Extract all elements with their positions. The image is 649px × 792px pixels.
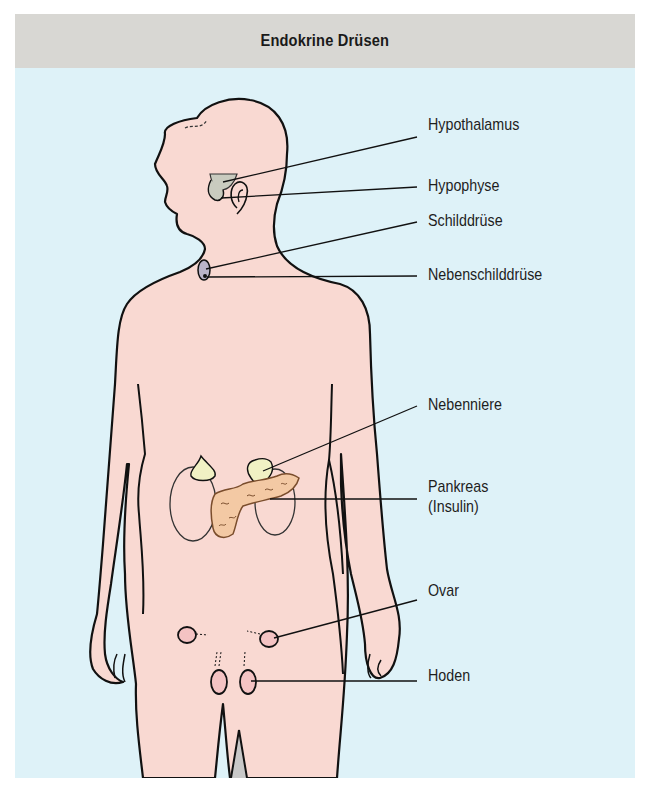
label-pankreas-note: (Insulin): [428, 497, 479, 517]
label-hoden: Hoden: [428, 666, 470, 686]
label-hypophyse: Hypophyse: [428, 176, 499, 196]
label-hypothalamus: Hypothalamus: [428, 115, 519, 135]
diagram-panel: Endokrine Drüsen: [15, 14, 635, 778]
human-body-illustration: [15, 14, 635, 778]
left-hand-fingers: [114, 654, 125, 682]
label-schilddruese: Schilddrüse: [428, 211, 503, 231]
label-nebenschilddruese: Nebenschilddrüse: [428, 265, 542, 285]
label-nebenniere: Nebenniere: [428, 395, 502, 415]
label-pankreas: Pankreas: [428, 477, 488, 497]
label-ovar: Ovar: [428, 581, 459, 601]
